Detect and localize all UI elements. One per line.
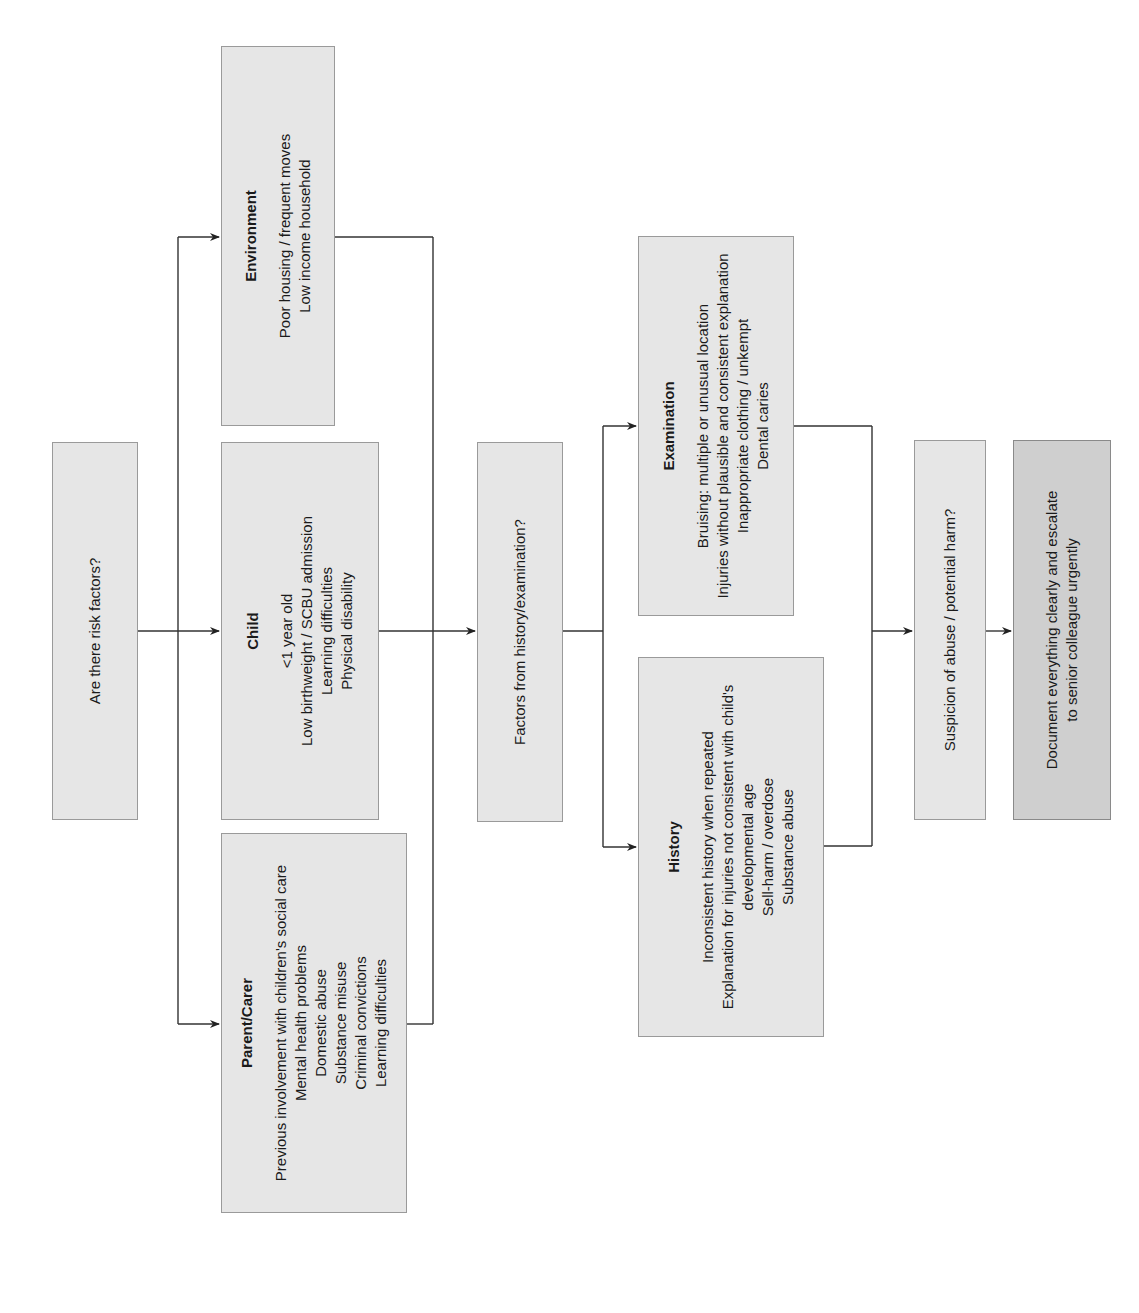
examination-box: Examination Bruising: multiple or unusua… (638, 236, 794, 616)
environment-title: Environment (241, 134, 261, 338)
child-item: Low birthweight / SCBU admission (297, 516, 317, 746)
factors-question-label: Factors from history/examination? (510, 519, 530, 745)
child-title: Child (243, 516, 263, 746)
factors-question-box: Factors from history/examination? (477, 442, 563, 822)
environment-item: Poor housing / frequent moves (275, 134, 295, 338)
escalate-action-box: Document everything clearly and escalate… (1013, 440, 1111, 820)
history-item: Substance abuse (778, 685, 798, 1010)
parent-carer-item: Domestic abuse (311, 865, 331, 1181)
risk-factors-question-box: Are there risk factors? (52, 442, 138, 820)
suspicion-question-label: Suspicion of abuse / potential harm? (940, 509, 960, 752)
child-item: <1 year old (277, 516, 297, 746)
parent-carer-item: Substance misuse (331, 865, 351, 1181)
child-box: Child <1 year old Low birthweight / SCBU… (221, 442, 379, 820)
parent-carer-item: Criminal convictions (351, 865, 371, 1181)
suspicion-question-box: Suspicion of abuse / potential harm? (914, 440, 986, 820)
examination-title: Examination (659, 253, 679, 598)
history-item: developmental age (738, 685, 758, 1010)
examination-item: Injuries without plausible and consisten… (713, 253, 733, 598)
environment-box: Environment Poor housing / frequent move… (221, 46, 335, 426)
child-item: Physical disability (337, 516, 357, 746)
history-item: Sell-harm / overdose (758, 685, 778, 1010)
examination-item: Bruising: multiple or unusual location (693, 253, 713, 598)
history-item: Inconsistent history when repeated (698, 685, 718, 1010)
history-item: Explanation for injuries not consistent … (718, 685, 738, 1010)
risk-factors-question-label: Are there risk factors? (85, 558, 105, 705)
parent-carer-title: Parent/Carer (237, 865, 257, 1181)
parent-carer-item: Learning difficulties (371, 865, 391, 1181)
parent-carer-item: Mental health problems (291, 865, 311, 1181)
escalate-action-line: Document everything clearly and escalate (1042, 491, 1062, 769)
parent-carer-item: Previous involvement with children's soc… (271, 865, 291, 1181)
parent-carer-box: Parent/Carer Previous involvement with c… (221, 833, 407, 1213)
examination-item: Dental caries (753, 253, 773, 598)
child-item: Learning difficulties (317, 516, 337, 746)
examination-item: Inappropriate clothing / unkempt (733, 253, 753, 598)
history-title: History (664, 685, 684, 1010)
environment-item: Low income household (295, 134, 315, 338)
escalate-action-line: to senior colleague urgently (1062, 491, 1082, 769)
history-box: History Inconsistent history when repeat… (638, 657, 824, 1037)
